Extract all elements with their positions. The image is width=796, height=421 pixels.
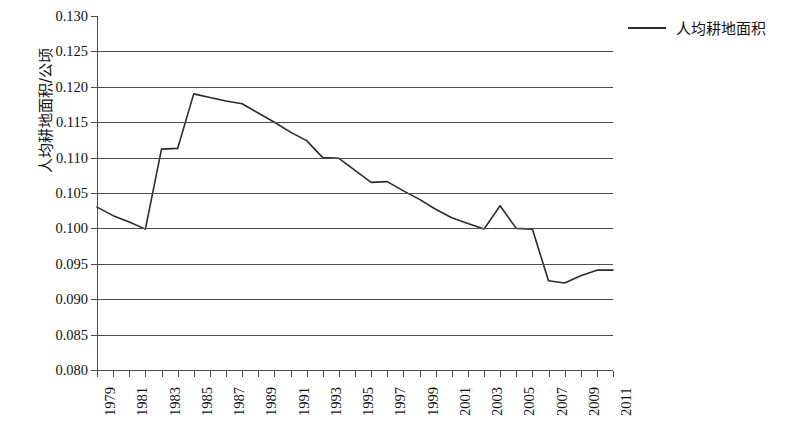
y-tick-label: 0.115 [56,115,88,129]
y-tick-label: 0.100 [55,221,88,235]
x-tick-label: 1989 [264,387,278,416]
y-tick-mark [91,158,97,159]
gridline [97,264,613,265]
gridline [97,228,613,229]
y-tick-label: 0.105 [55,186,88,200]
y-tick-label: 0.090 [55,292,88,306]
x-tick-label: 1985 [200,387,214,416]
chart-figure: 人均耕地面积/公顷 0.1300.1250.1200.1150.1100.105… [0,0,796,421]
x-tick-label: 2011 [619,388,633,416]
x-axis-tick-labels: 1979198119831985198719891991199319951997… [97,376,637,421]
gridline [97,87,613,88]
x-tick-label: 1987 [232,387,246,416]
x-tick-label: 1997 [393,387,407,416]
x-tick-label: 2003 [490,387,504,416]
y-tick-label: 0.095 [55,257,88,271]
gridline [97,158,613,159]
legend-label: 人均耕地面积 [676,17,766,38]
gridline [97,335,613,336]
x-tick-label: 1981 [135,387,149,416]
y-tick-mark [91,122,97,123]
y-tick-mark [91,264,97,265]
y-tick-label: 0.130 [55,9,88,23]
y-tick-mark [91,87,97,88]
gridline [97,299,613,300]
x-tick-label: 1999 [426,387,440,416]
gridline [97,193,613,194]
y-tick-mark [91,335,97,336]
y-tick-label: 0.085 [55,328,88,342]
y-tick-mark [91,16,97,17]
x-tick-label: 2001 [458,387,472,416]
y-tick-label: 0.120 [55,80,88,94]
y-tick-label: 0.125 [55,44,88,58]
y-tick-label: 0.080 [55,363,88,377]
x-tick-label: 1983 [168,387,182,416]
gridline [97,122,613,123]
y-tick-mark [91,51,97,52]
chart-legend: 人均耕地面积 [628,17,766,38]
x-tick-label: 1995 [361,387,375,416]
y-tick-mark [91,228,97,229]
y-axis-tick-labels: 0.1300.1250.1200.1150.1100.1050.1000.095… [26,0,88,421]
gridline [97,51,613,52]
y-tick-mark [91,193,97,194]
x-tick-label: 1979 [103,387,117,416]
x-tick-label: 1991 [297,387,311,416]
x-tick-label: 2007 [555,387,569,416]
x-tick-label: 1993 [329,387,343,416]
legend-line-swatch [628,27,666,29]
y-tick-mark [91,299,97,300]
y-tick-label: 0.110 [56,151,88,165]
plot-area [97,16,613,370]
x-tick-label: 2005 [522,387,536,416]
x-tick-label: 2009 [587,387,601,416]
